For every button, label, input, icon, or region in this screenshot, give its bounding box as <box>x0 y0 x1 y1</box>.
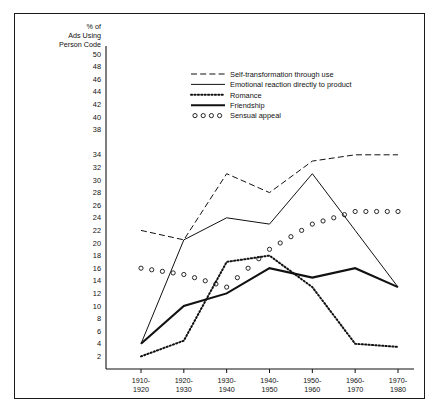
data-point-marker <box>396 209 400 213</box>
data-point-marker <box>267 247 271 251</box>
y-tick-label: 30 <box>93 176 101 185</box>
y-tick-label: 2 <box>97 352 101 361</box>
data-point-marker <box>160 269 164 273</box>
data-point-marker <box>374 209 378 213</box>
x-tick-label-line: 1970 <box>347 385 363 394</box>
x-tick-label-line: 1950 <box>262 385 278 394</box>
legend-item: Self-transformation through use <box>191 70 334 79</box>
y-tick-label: 22 <box>93 226 101 235</box>
y-tick-label: 24 <box>93 213 101 222</box>
y-axis-title-line: Person Code <box>59 40 101 49</box>
data-point-marker <box>385 209 389 213</box>
y-tick-label: 6 <box>97 327 101 336</box>
data-point-marker <box>182 272 186 276</box>
series-line <box>141 174 398 344</box>
data-point-marker <box>310 222 314 226</box>
legend-item: Romance <box>191 91 262 100</box>
y-tick-label: 18 <box>93 251 101 260</box>
chart-legend: Self-transformation through useEmotional… <box>191 70 352 121</box>
data-point-marker <box>246 266 250 270</box>
data-point-marker <box>364 209 368 213</box>
legend-item: Friendship <box>191 101 265 110</box>
series-circles <box>139 209 400 289</box>
y-tick-label: 12 <box>93 289 101 298</box>
figure-frame: % ofAds UsingPerson Code2468101214161820… <box>14 13 425 399</box>
legend-label: Emotional reaction directly to product <box>230 80 352 89</box>
legend-label: Friendship <box>230 101 265 110</box>
data-point-marker <box>171 271 175 275</box>
y-tick-label: 16 <box>93 264 101 273</box>
series-line <box>141 268 398 344</box>
data-point-marker <box>192 276 196 280</box>
data-point-marker <box>321 219 325 223</box>
data-point-marker <box>203 279 207 283</box>
y-tick-label: 32 <box>93 163 101 172</box>
y-tick-label: 46 <box>93 75 101 84</box>
series-solid-thick <box>141 268 398 344</box>
x-tick-label-line: 1940 <box>219 385 235 394</box>
data-point-marker <box>278 241 282 245</box>
x-tick-label-line: 1930 <box>176 385 192 394</box>
data-point-marker <box>139 266 143 270</box>
data-point-marker <box>225 285 229 289</box>
y-tick-label: 38 <box>93 125 101 134</box>
data-point-marker <box>332 216 336 220</box>
data-point-marker <box>300 228 304 232</box>
x-tick-label-line: 1960 <box>304 385 320 394</box>
y-tick-label: 48 <box>93 62 101 71</box>
y-axis-title: % ofAds UsingPerson Code <box>59 22 101 49</box>
data-point-marker <box>235 276 239 280</box>
legend-swatch-circle <box>218 114 222 118</box>
y-tick-label: 44 <box>93 87 101 96</box>
data-point-marker <box>289 235 293 239</box>
legend-label: Romance <box>230 91 262 100</box>
x-tick-labels: 1910-19201920-19301930-19401940-19501950… <box>132 369 408 394</box>
line-chart: % ofAds UsingPerson Code2468101214161820… <box>15 14 424 398</box>
y-tick-label: 14 <box>93 276 101 285</box>
y-tick-label: 50 <box>93 50 101 59</box>
legend-label: Sensual appeal <box>230 111 281 120</box>
y-tick-label: 28 <box>93 188 101 197</box>
y-tick-label: 8 <box>97 314 101 323</box>
y-axis-title-line: % of <box>87 22 101 31</box>
y-tick-label: 4 <box>97 339 101 348</box>
y-tick-label: 42 <box>93 100 101 109</box>
series-line <box>141 155 398 240</box>
legend-swatch-circle <box>193 114 197 118</box>
series-solid-thin <box>141 174 398 344</box>
legend-label: Self-transformation through use <box>230 70 334 79</box>
y-tick-labels: 2468101214161820222426283032343840424446… <box>93 50 101 361</box>
y-tick-label: 26 <box>93 201 101 210</box>
series-dashed <box>141 155 398 240</box>
data-point-marker <box>353 209 357 213</box>
y-tick-label: 10 <box>93 302 101 311</box>
x-tick-label-line: 1920 <box>133 385 149 394</box>
y-tick-label: 34 <box>93 150 101 159</box>
legend-swatch-circle <box>209 114 213 118</box>
y-axis-title-line: Ads Using <box>68 31 101 40</box>
legend-item: Sensual appeal <box>193 111 281 120</box>
data-point-marker <box>150 268 154 272</box>
y-tick-label: 40 <box>93 113 101 122</box>
legend-item: Emotional reaction directly to product <box>191 80 352 89</box>
legend-swatch-circle <box>201 114 205 118</box>
y-tick-label: 20 <box>93 239 101 248</box>
x-tick-label-line: 1980 <box>390 385 406 394</box>
